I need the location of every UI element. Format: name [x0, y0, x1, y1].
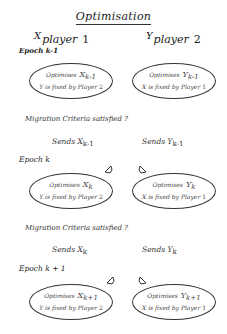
player-2-optimisation-node: OptimisesYk X is fixed by Player 1	[132, 173, 216, 209]
send-label: Sends	[52, 137, 75, 146]
node-subscript: k-1	[188, 73, 199, 81]
player-2-heading: Yplayer2	[146, 30, 201, 46]
migration-question: Migration Criteria satisfied ?	[25, 224, 128, 232]
node-subscript: k-1	[85, 73, 96, 81]
player-2-label: player	[154, 33, 189, 46]
migration-question: Migration Criteria satisfied ?	[25, 115, 128, 123]
player-2-optimisation-node: OptimisesYk-1 X is fixed by Player 1	[132, 63, 216, 99]
node-text: Optimises	[49, 181, 79, 188]
node-text: Optimises	[147, 292, 177, 299]
node-player-number: 1	[202, 193, 206, 200]
node-player-number: 2	[99, 193, 103, 200]
player-1-optimisation-node: OptimisesXk-1 Y is fixed by Player 2	[29, 63, 113, 99]
epoch-label: Epoch k-1	[19, 46, 58, 55]
player-1-number: 1	[82, 33, 89, 46]
node-player-number: 1	[202, 304, 206, 311]
node-text: Optimises	[44, 292, 74, 299]
node-subscript: k+1	[83, 294, 98, 302]
epoch-label: Epoch k	[19, 155, 50, 164]
incoming-marker-icon	[138, 165, 148, 175]
node-text: Optimises	[149, 71, 179, 78]
player-1-heading: Xplayer1	[34, 30, 89, 46]
player-1-symbol: X	[34, 30, 41, 41]
node-subscript: k	[88, 183, 92, 191]
node-player-number: 1	[202, 83, 206, 90]
epoch-label: Epoch k + 1	[19, 264, 66, 273]
node-subscript: k	[191, 183, 195, 191]
player-1-optimisation-node: OptimisesXk+1 Y is fixed by Player 2	[29, 284, 113, 320]
send-subscript: k-1	[83, 140, 94, 148]
send-player-2: Sends Yk	[142, 245, 177, 256]
diagram-title: Optimisation	[0, 10, 227, 23]
send-subscript: k	[83, 248, 87, 256]
node-constraint: Y is fixed by Player	[39, 304, 97, 311]
node-constraint: X is fixed by Player	[142, 193, 200, 200]
send-label: Sends	[142, 245, 165, 254]
node-text: Optimises	[153, 181, 183, 188]
send-label: Sends	[52, 245, 75, 254]
send-subscript: k	[172, 248, 176, 256]
send-subscript: k-1	[172, 140, 183, 148]
node-constraint: Y is fixed by Player	[39, 193, 97, 200]
node-constraint: Y is fixed by Player	[39, 83, 97, 90]
node-text: Optimises	[46, 71, 76, 78]
node-subscript: k+1	[186, 294, 201, 302]
player-2-optimisation-node: OptimisesYk+1 X is fixed by Player 1	[132, 284, 216, 320]
incoming-marker-icon	[103, 165, 113, 175]
send-player-1: Sends Xk	[52, 245, 87, 256]
send-player-1: Sends Xk-1	[52, 137, 94, 148]
player-1-label: player	[42, 33, 77, 46]
player-2-symbol: Y	[146, 30, 153, 41]
node-player-number: 2	[99, 83, 103, 90]
node-constraint: X is fixed by Player	[142, 304, 200, 311]
incoming-marker-icon	[105, 276, 115, 286]
node-constraint: X is fixed by Player	[142, 83, 200, 90]
send-label: Sends	[142, 137, 165, 146]
player-1-optimisation-node: OptimisesXk Y is fixed by Player 2	[29, 173, 113, 209]
node-player-number: 2	[99, 304, 103, 311]
incoming-marker-icon	[138, 276, 148, 286]
player-2-number: 2	[194, 33, 201, 46]
send-player-2: Sends Yk-1	[142, 137, 183, 148]
